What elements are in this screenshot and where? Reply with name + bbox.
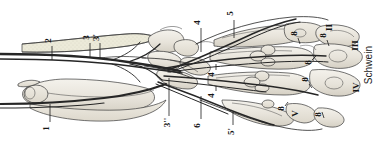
label-4-middle: 4 [207,72,216,77]
label-8-c: 8 [304,60,313,65]
label-3: 3 [82,35,91,40]
label-3-double-prime: 3'' [163,118,172,128]
label-1: 1 [42,126,51,131]
label-8-a: 8 [290,31,299,36]
label-8-b: 8 [319,33,328,38]
species-caption: Schwein [364,46,374,85]
label-5-top: 5 [226,11,235,16]
label-5-prime: 5' [227,128,236,135]
label-8-d: 8 [301,77,310,82]
digit-label-II: II [325,24,334,31]
label-6: 6 [193,123,202,128]
digit-label-V: V [291,110,300,117]
label-8-e: 8 [277,106,286,111]
anatomical-figure: 1 2 3 3' 3'' 4 4 4 5 5' 6 8 8 8 8 8 8 II… [0,0,389,150]
label-8-f: 8 [314,112,323,117]
label-4-top: 4 [193,20,202,25]
label-3-prime: 3' [92,34,101,41]
digit-label-III: III [351,40,360,51]
digit-label-IV: IV [352,82,361,92]
label-4-lower: 4 [207,93,216,98]
label-2: 2 [44,38,53,43]
